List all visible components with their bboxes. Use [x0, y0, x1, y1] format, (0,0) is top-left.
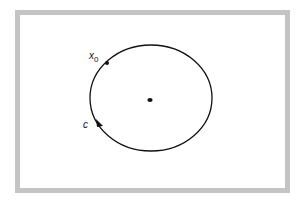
start-point-x0: [105, 61, 109, 65]
direction-arrow-icon: [96, 119, 103, 127]
center-point: [147, 98, 152, 102]
curve-label: c: [83, 119, 88, 130]
closed-curve: [90, 45, 212, 151]
start-point-label: x0: [88, 50, 99, 64]
phase-diagram: x0 c: [0, 0, 303, 202]
